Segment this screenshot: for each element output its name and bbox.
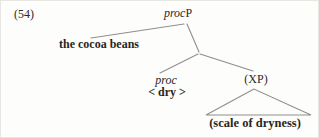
branch-root-to-specifier xyxy=(91,24,184,38)
root-node-label: procP xyxy=(164,7,192,20)
complement-node-label: (XP) xyxy=(244,73,267,86)
example-number: (54) xyxy=(14,8,34,21)
branch-procbar-to-head xyxy=(160,54,198,73)
branch-procbar-to-complement xyxy=(200,54,253,71)
complement-content-label: (scale of dryness) xyxy=(209,117,301,131)
branch-root-to-procbar xyxy=(187,24,199,52)
head-lexical-item-label: < dry > xyxy=(148,86,186,99)
syntax-tree-figure: (54) procP the cocoa beans proc < dry > … xyxy=(0,0,319,138)
xp-triangle xyxy=(206,89,311,115)
specifier-node-label: the cocoa beans xyxy=(59,38,139,51)
root-label-italic-part: proc xyxy=(164,6,186,20)
root-label-roman-part: P xyxy=(185,6,192,20)
